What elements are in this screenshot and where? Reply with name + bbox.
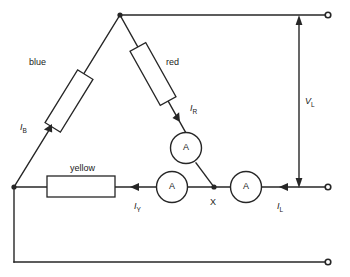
resistor-yellow <box>47 176 115 197</box>
branch-label-red: red <box>166 57 179 67</box>
branch-label-blue: blue <box>29 57 46 67</box>
ammeter-y-label: A <box>169 181 175 191</box>
current-label-ir-sub: R <box>193 108 198 115</box>
junction-node-x <box>211 184 216 189</box>
node-label-x: X <box>210 197 216 207</box>
circuit-diagram-page: blue red yellow IB IR IY IL VL X A A A <box>0 0 350 277</box>
terminal-middle-right[interactable] <box>325 184 331 190</box>
current-label-iy-sub: Y <box>137 206 141 213</box>
ammeter-l-label: A <box>243 181 249 191</box>
voltage-label-vl: VL <box>305 96 315 108</box>
terminal-bottom-right[interactable] <box>325 259 331 265</box>
wire-ammeter-r-to-x <box>196 163 214 187</box>
voltage-label-vl-sub: L <box>311 101 315 108</box>
junction-apex <box>117 12 122 17</box>
circuit-diagram-svg <box>0 0 350 277</box>
resistor-red <box>130 43 176 106</box>
resistor-blue <box>45 70 93 132</box>
junction-left <box>11 184 16 189</box>
current-label-ib-sub: B <box>23 127 27 134</box>
current-label-il: IL <box>277 201 283 213</box>
current-label-iy: IY <box>134 201 141 213</box>
branch-label-yellow: yellow <box>70 163 95 173</box>
current-label-il-sub: L <box>280 206 284 213</box>
current-label-ir: IR <box>190 103 197 115</box>
ammeter-r-label: A <box>183 142 189 152</box>
terminal-top-right[interactable] <box>325 12 331 18</box>
current-label-ib: IB <box>20 122 27 134</box>
